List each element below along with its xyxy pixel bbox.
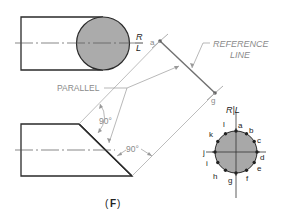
reference-label-line2: LINE <box>230 50 251 60</box>
parallel-callout: PARALLEL <box>57 66 179 143</box>
angle-1-label: 90° <box>99 116 112 126</box>
circle-label-j: j <box>202 148 205 157</box>
parallel-leader-1 <box>104 66 179 88</box>
auxiliary-view-diagram: R L a g REFERENCE LINE PARALLEL <box>0 0 289 220</box>
reference-leader <box>192 43 210 68</box>
circle-label-b: b <box>249 126 254 135</box>
circle-label-c: c <box>257 136 261 145</box>
angle-2: 90° <box>117 144 152 156</box>
circle-point-d <box>255 150 258 153</box>
circle-label-f: f <box>246 174 249 183</box>
circle-point-k <box>216 140 219 143</box>
circle-point-c <box>253 140 256 143</box>
angle-2-label: 90° <box>126 144 139 154</box>
caption-close-paren: ) <box>117 198 120 209</box>
reference-callout: REFERENCE LINE <box>190 39 270 68</box>
projection-line-2 <box>132 93 215 176</box>
parallel-label: PARALLEL <box>57 83 100 93</box>
circle-point-b <box>245 132 248 135</box>
angle-1-arrow2-icon <box>98 128 102 133</box>
caption-letter: F <box>110 198 116 209</box>
circle-label-k: k <box>209 130 214 139</box>
circle-point-f <box>245 169 248 172</box>
top-view-circle <box>77 17 130 70</box>
top-view: R L <box>15 17 143 70</box>
reference-line <box>160 41 215 93</box>
auxiliary-view: R|L a b c d e f g h i j k l <box>202 105 266 198</box>
circle-label-e: e <box>257 164 262 173</box>
circle-label-d: d <box>260 153 264 162</box>
caption-open-paren: ( <box>105 198 109 209</box>
angle-1: 90° <box>98 104 112 133</box>
reference-label-line1: REFERENCE <box>213 39 270 49</box>
point-a-label: a <box>150 38 155 47</box>
circle-label-h: h <box>213 172 217 181</box>
circle-point-l <box>224 132 227 135</box>
circle-point-h <box>224 169 227 172</box>
rl-label-l: L <box>136 43 141 53</box>
angle-2-arrow-icon <box>117 152 122 156</box>
rl-label-r: R <box>136 32 143 42</box>
aux-rl-label: R|L <box>226 105 240 115</box>
circle-point-e <box>253 161 256 164</box>
point-g-label: g <box>211 96 215 105</box>
circle-label-g: g <box>228 176 232 185</box>
angle-2-arrow2-icon <box>147 152 152 156</box>
circle-point-i <box>216 161 219 164</box>
figure-caption: ( F ) <box>105 198 120 209</box>
front-view <box>15 124 132 176</box>
circle-label-i: i <box>206 159 208 168</box>
circle-point-j <box>213 150 216 153</box>
circle-label-a: a <box>238 121 243 130</box>
circle-label-l: l <box>223 120 225 129</box>
circle-point-g <box>234 171 237 174</box>
